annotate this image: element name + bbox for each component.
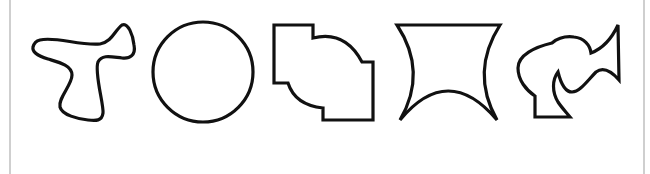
- shape-2-circle: [153, 22, 253, 122]
- shape-4-concave-quad: [397, 25, 500, 120]
- shape-3-stepped-arc: [274, 25, 373, 120]
- shape-sequence: [0, 0, 650, 174]
- shape-5-irregular: [518, 25, 619, 117]
- shape-1-blob: [33, 25, 134, 121]
